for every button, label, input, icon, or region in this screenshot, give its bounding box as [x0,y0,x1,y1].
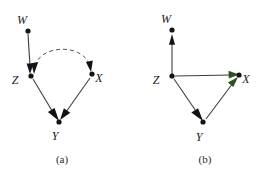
node-label-a-y: Y [52,129,60,143]
arrowhead-z-to-y [191,108,203,121]
node-a-y [56,119,61,124]
node-label-b-z: Z [153,73,160,87]
edge-z-to-x [175,75,232,76]
caption-panel-a: (a) [56,153,69,166]
edge-w-to-z [28,34,30,66]
node-a-z [28,73,33,78]
arrowhead-y-to-x [228,77,238,87]
node-label-a-x: X [94,71,103,85]
node-a-x [89,71,94,76]
node-b-x [236,72,241,77]
arrowhead-dashed-at-z [31,62,38,74]
node-label-b-w: W [161,12,172,26]
edge-z-to-x-dashed [35,49,89,66]
caption-panel-b: (b) [199,153,212,166]
node-label-a-w: W [17,13,28,27]
node-b-z [169,73,174,78]
edge-z-to-y [174,79,198,114]
node-label-b-y: Y [196,130,204,144]
node-b-w [169,27,174,32]
panel-a: W Z X Y (a) [0,0,129,177]
edge-y-to-x [206,83,233,119]
edge-x-to-y [66,78,90,112]
node-label-b-x: X [241,72,250,86]
arrowhead-z-to-y [48,108,59,121]
arrowhead-dashed-at-x [86,60,93,72]
node-b-y [200,119,205,124]
arrowhead-z-to-w [169,34,175,45]
arrowhead-x-to-y [60,108,70,120]
node-a-w [25,28,30,33]
node-label-a-z: Z [12,73,19,87]
panel-b: W Z X Y (b) [129,0,259,177]
figure-root: W Z X Y (a) W Z X Y (b) [0,0,259,177]
edge-z-to-y [33,79,54,114]
